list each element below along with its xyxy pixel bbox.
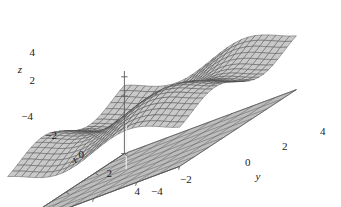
surface-plot-canvas: 4 2 −4 z −2 0 2 4 x −4 −2 0 2 4 y [0,0,341,207]
y-tick-label-neg2: −2 [180,173,192,185]
x-tick-label-4: 4 [135,185,141,197]
x-axis-title: x [72,153,78,165]
surface-plot-figure: 4 2 −4 z −2 0 2 4 x −4 −2 0 2 4 y [0,0,341,207]
z-tick-label-4: 4 [30,46,36,58]
y-tick-label-2: 2 [282,140,288,152]
y-tick-label-4: 4 [320,125,326,137]
z-axis-title: z [17,63,23,75]
x-tick-label-2: 2 [107,167,113,179]
z-tick-label-2: 2 [30,74,36,86]
y-tick-label-neg4: −4 [151,185,163,197]
y-axis-title: y [255,170,261,182]
y-tick-label-0: 0 [245,156,251,168]
x-tick-label-neg2: −2 [45,129,57,141]
z-tick-label-neg4: −4 [21,110,33,122]
x-tick-label-0: 0 [79,148,85,160]
